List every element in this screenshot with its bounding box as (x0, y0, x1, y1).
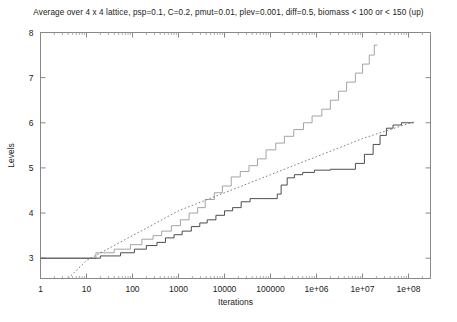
plot-frame (41, 33, 431, 279)
y-tick-label: 5 (29, 163, 34, 173)
y-tick-label: 3 (29, 253, 34, 263)
x-tick-label: 1 (38, 284, 43, 294)
x-axis-label: Iterations (218, 297, 253, 307)
x-tick-label: 100 (125, 284, 139, 294)
x-tick-label: 1e+08 (397, 284, 421, 294)
x-tick-label: 10000 (213, 284, 237, 294)
series-step-solid-light (41, 45, 378, 258)
y-tick-label: 8 (29, 28, 34, 38)
x-tick-label: 1000 (169, 284, 188, 294)
x-tick-label: 1e+07 (351, 284, 375, 294)
x-tick-label: 100000 (256, 284, 285, 294)
y-tick-label: 4 (29, 208, 34, 218)
y-tick-label: 7 (29, 73, 34, 83)
x-tick-label: 1e+06 (305, 284, 329, 294)
chart-figure: Average over 4 x 4 lattice, psp=0.1, C=0… (0, 0, 457, 322)
series-dotted (68, 122, 414, 279)
x-tick-label: 10 (82, 284, 92, 294)
series-step-solid-dark (41, 123, 414, 258)
y-tick-label: 6 (29, 118, 34, 128)
plot-canvas: 1101001000100001000001e+061e+071e+083456… (0, 0, 457, 322)
y-axis-label: Levels (6, 143, 16, 168)
